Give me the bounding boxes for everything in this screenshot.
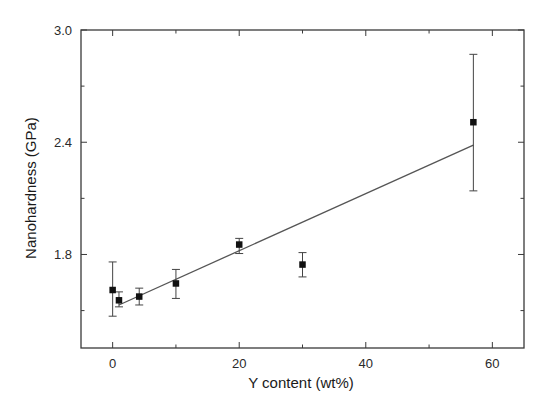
axis-tick-labels: 02040601.82.43.0 [54,23,500,371]
plot-border [81,30,524,348]
fit-line [119,145,473,305]
x-tick-label: 20 [232,356,246,371]
plot-frame [81,30,524,348]
square-marker [299,261,306,268]
y-tick-label: 3.0 [54,23,72,38]
x-tick-label: 60 [485,356,499,371]
x-axis-title: Y content (wt%) [248,374,354,391]
linear-fit-line [119,145,473,305]
square-marker [136,293,143,300]
chart: 02040601.82.43.0 Y content (wt%) Nanohar… [0,0,549,413]
y-tick-label: 2.4 [54,135,72,150]
square-marker [109,287,116,294]
x-tick-label: 0 [109,356,116,371]
error-bars [109,54,478,316]
y-tick-label: 1.8 [54,247,72,262]
axis-ticks [81,30,524,348]
data-markers [109,119,476,304]
square-marker [173,280,180,287]
square-marker [116,297,123,304]
y-axis-title: Nanohardness (GPa) [22,117,39,259]
x-tick-label: 40 [359,356,373,371]
square-marker [470,119,477,126]
square-marker [236,241,243,248]
